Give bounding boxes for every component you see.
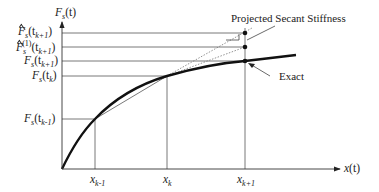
exact-label: Exact <box>279 71 304 82</box>
y-label-close: ) <box>51 41 55 53</box>
exact-pointer <box>248 63 270 76</box>
diagram-canvas <box>0 0 379 192</box>
y-label-main: F <box>32 69 39 81</box>
x-label-sub: k <box>168 179 172 188</box>
y-label-main: F <box>24 112 31 124</box>
x-label-sub: k+1 <box>242 179 255 188</box>
y-label-close: ) <box>54 54 58 66</box>
y-label-arg-sub: k+1 <box>41 60 54 69</box>
y-label-fk: Fs(tk) <box>32 70 57 84</box>
y-label-fhat: Fs(tk+1) <box>18 26 52 40</box>
y-reference-lines <box>62 33 245 119</box>
y-axis-title: Fs(t) <box>55 7 76 21</box>
y-label-close: ) <box>48 25 52 37</box>
y-label-arg: (t <box>31 41 38 53</box>
y-axis-title-main: F <box>55 6 62 18</box>
x-label-xkp1: xk+1 <box>237 174 255 188</box>
x-label-sub: k-1 <box>95 179 105 188</box>
y-label-arg-sub: k+1 <box>35 31 48 40</box>
x-label-xk: xk <box>163 174 172 188</box>
y-label-arg-sub: k-1 <box>41 118 51 127</box>
projected-secant-label: Projected Secant Stiffness <box>231 13 346 24</box>
y-label-close: ) <box>53 69 57 81</box>
x-label-xkm1: xk-1 <box>90 174 105 188</box>
y-label-fkm1: Fs(tk-1) <box>24 113 55 127</box>
x-axis-title: x(t) <box>344 163 360 175</box>
y-label-main: F <box>18 26 25 38</box>
x-axis-title-arg: (t) <box>349 162 360 174</box>
y-label-fk1: Fs(tk+1) <box>24 55 58 69</box>
y-label-main: F <box>24 54 31 66</box>
y-label-close: ) <box>51 112 55 124</box>
y-axis-title-arg: (t) <box>65 6 76 18</box>
y-label-main: F <box>16 42 23 54</box>
exact-curve <box>62 55 296 169</box>
